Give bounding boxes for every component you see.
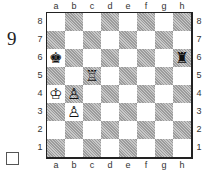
- white-king-icon[interactable]: ♔: [49, 87, 62, 102]
- white-pawn-icon[interactable]: ♙: [67, 105, 80, 120]
- square-e7[interactable]: [119, 31, 137, 49]
- square-c8[interactable]: [83, 13, 101, 31]
- square-b7[interactable]: [65, 31, 83, 49]
- rank-label-8: 8: [35, 16, 45, 26]
- rank-label-5: 5: [35, 70, 45, 80]
- square-d6[interactable]: [101, 49, 119, 67]
- file-label-h: h: [173, 1, 191, 11]
- square-e3[interactable]: [119, 103, 137, 121]
- square-b6[interactable]: [65, 49, 83, 67]
- rank-label-1: 1: [35, 142, 45, 152]
- square-e5[interactable]: [119, 67, 137, 85]
- black-rook-icon[interactable]: ♜: [175, 51, 188, 66]
- square-g1[interactable]: [155, 139, 173, 157]
- square-a8[interactable]: [47, 13, 65, 31]
- square-h1[interactable]: [173, 139, 191, 157]
- file-label-g: g: [155, 160, 173, 170]
- square-d7[interactable]: [101, 31, 119, 49]
- square-h5[interactable]: [173, 67, 191, 85]
- file-label-a: a: [47, 160, 65, 170]
- solved-checkbox[interactable]: [6, 152, 19, 165]
- square-a3[interactable]: [47, 103, 65, 121]
- square-f7[interactable]: [137, 31, 155, 49]
- file-label-d: d: [101, 160, 119, 170]
- black-king-icon[interactable]: ♚: [49, 51, 62, 66]
- file-label-e: e: [119, 1, 137, 11]
- square-a4[interactable]: ♔: [47, 85, 65, 103]
- square-f8[interactable]: [137, 13, 155, 31]
- square-f6[interactable]: [137, 49, 155, 67]
- square-c1[interactable]: [83, 139, 101, 157]
- square-a2[interactable]: [47, 121, 65, 139]
- square-g2[interactable]: [155, 121, 173, 139]
- square-e8[interactable]: [119, 13, 137, 31]
- square-e2[interactable]: [119, 121, 137, 139]
- square-e1[interactable]: [119, 139, 137, 157]
- file-label-f: f: [137, 1, 155, 11]
- square-h3[interactable]: [173, 103, 191, 121]
- rank-label-7: 7: [194, 34, 204, 44]
- rank-label-5: 5: [194, 70, 204, 80]
- white-pawn-icon[interactable]: ♙: [67, 87, 80, 102]
- square-g8[interactable]: [155, 13, 173, 31]
- square-b1[interactable]: [65, 139, 83, 157]
- file-label-b: b: [65, 1, 83, 11]
- square-c3[interactable]: [83, 103, 101, 121]
- rank-label-1: 1: [194, 142, 204, 152]
- square-f3[interactable]: [137, 103, 155, 121]
- rank-label-6: 6: [194, 52, 204, 62]
- square-b5[interactable]: [65, 67, 83, 85]
- square-b4[interactable]: ♙: [65, 85, 83, 103]
- square-f1[interactable]: [137, 139, 155, 157]
- square-e4[interactable]: [119, 85, 137, 103]
- square-c6[interactable]: [83, 49, 101, 67]
- file-label-d: d: [101, 1, 119, 11]
- square-g5[interactable]: [155, 67, 173, 85]
- file-label-e: e: [119, 160, 137, 170]
- square-g3[interactable]: [155, 103, 173, 121]
- square-g4[interactable]: [155, 85, 173, 103]
- file-label-c: c: [83, 160, 101, 170]
- square-e6[interactable]: [119, 49, 137, 67]
- square-a7[interactable]: [47, 31, 65, 49]
- square-c7[interactable]: [83, 31, 101, 49]
- rank-label-3: 3: [35, 106, 45, 116]
- square-d4[interactable]: [101, 85, 119, 103]
- square-d2[interactable]: [101, 121, 119, 139]
- square-d1[interactable]: [101, 139, 119, 157]
- square-h7[interactable]: [173, 31, 191, 49]
- square-a1[interactable]: [47, 139, 65, 157]
- square-f2[interactable]: [137, 121, 155, 139]
- file-label-b: b: [65, 160, 83, 170]
- square-d8[interactable]: [101, 13, 119, 31]
- square-h2[interactable]: [173, 121, 191, 139]
- rank-label-4: 4: [194, 88, 204, 98]
- rank-label-3: 3: [194, 106, 204, 116]
- rank-label-2: 2: [194, 124, 204, 134]
- square-h6[interactable]: ♜: [173, 49, 191, 67]
- square-d3[interactable]: [101, 103, 119, 121]
- square-f5[interactable]: [137, 67, 155, 85]
- square-g7[interactable]: [155, 31, 173, 49]
- diagram-number: 9: [7, 28, 17, 50]
- square-a5[interactable]: [47, 67, 65, 85]
- square-b8[interactable]: [65, 13, 83, 31]
- rank-label-6: 6: [35, 52, 45, 62]
- square-c2[interactable]: [83, 121, 101, 139]
- chess-board[interactable]: ♚♜♖♔♙♙: [46, 12, 193, 159]
- file-label-a: a: [47, 1, 65, 11]
- square-a6[interactable]: ♚: [47, 49, 65, 67]
- square-d5[interactable]: [101, 67, 119, 85]
- square-b3[interactable]: ♙: [65, 103, 83, 121]
- square-h8[interactable]: [173, 13, 191, 31]
- square-h4[interactable]: [173, 85, 191, 103]
- rank-label-7: 7: [35, 34, 45, 44]
- rank-label-8: 8: [194, 16, 204, 26]
- square-b2[interactable]: [65, 121, 83, 139]
- file-label-c: c: [83, 1, 101, 11]
- square-f4[interactable]: [137, 85, 155, 103]
- square-g6[interactable]: [155, 49, 173, 67]
- square-c5[interactable]: ♖: [83, 67, 101, 85]
- square-c4[interactable]: [83, 85, 101, 103]
- white-rook-icon[interactable]: ♖: [85, 69, 98, 84]
